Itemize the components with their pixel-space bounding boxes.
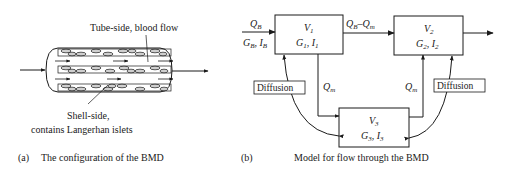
tube-side-label: Tube-side, blood flow <box>90 22 179 33</box>
flow-v1-v3-label: Qm <box>323 81 335 94</box>
bmd-device-diagram <box>20 35 208 104</box>
inflow-q-label: QB <box>250 18 262 31</box>
caption-b: Model for flow through the BMD <box>294 152 429 163</box>
shell-side-bands <box>58 49 171 91</box>
v3-volume-label: V3 <box>369 115 379 128</box>
compartment-v3 <box>339 108 409 147</box>
v2-gi-label: G2, I2 <box>416 38 439 51</box>
v1-gi-label: G1, I1 <box>296 37 319 50</box>
diffusion-left-arrow <box>284 55 339 136</box>
diffusion-left-label: Diffusion <box>257 83 293 93</box>
v2-volume-label: V2 <box>424 23 434 36</box>
v1-volume-label: V1 <box>304 22 314 35</box>
diffusion-right-label: Diffusion <box>437 81 473 91</box>
shell-side-label-2: contains Langerhan islets <box>31 124 133 135</box>
v3-gi-label: G3, I3 <box>361 130 384 143</box>
diffusion-right-arrow <box>409 56 452 138</box>
caption-a-marker: (a) <box>18 152 29 164</box>
inflow-gi-label: GB, IB <box>243 37 268 50</box>
flow-v1-v2-label: QB–Qm <box>346 18 375 31</box>
caption-a: The configuration of the BMD <box>41 152 164 163</box>
bmd-figure: Tube-side, blood flow Shell-side, contai… <box>0 0 510 177</box>
shell-side-label-1: Shell-side, <box>67 110 110 121</box>
caption-b-marker: (b) <box>241 152 253 164</box>
flow-v3-v2-label: Qm <box>405 81 417 94</box>
compartment-v1 <box>275 15 343 54</box>
compartment-v2 <box>394 16 463 55</box>
